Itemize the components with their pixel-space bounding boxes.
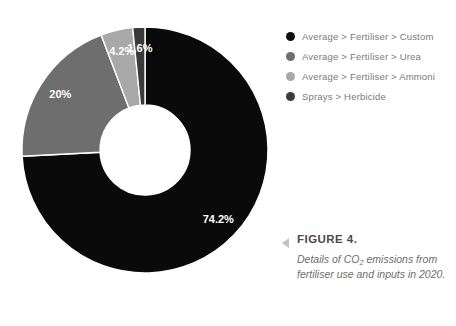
legend-swatch-icon bbox=[286, 52, 295, 61]
legend-item-label: Average > Fertiliser > Custom bbox=[302, 31, 434, 42]
figure-caption-body: FIGURE 4. Details of CO2 emissions from … bbox=[297, 233, 456, 282]
donut-chart-area: 74.2%20%4.2%1.6% bbox=[0, 0, 275, 326]
figure-caption-description: Details of CO2 emissions from fertiliser… bbox=[297, 252, 456, 282]
chart-legend: Average > Fertiliser > Custom Average > … bbox=[286, 28, 456, 108]
legend-swatch-icon bbox=[286, 92, 295, 101]
figure-caption: FIGURE 4. Details of CO2 emissions from … bbox=[282, 233, 456, 282]
legend-item-average-fertiliser-custom[interactable]: Average > Fertiliser > Custom bbox=[286, 28, 456, 44]
legend-item-average-fertiliser-urea[interactable]: Average > Fertiliser > Urea bbox=[286, 48, 456, 64]
legend-item-label: Sprays > Herbicide bbox=[302, 91, 386, 102]
figure-caption-description-part1: Details of CO bbox=[297, 253, 359, 265]
figure-caption-subscript: 2 bbox=[359, 258, 363, 267]
donut-chart-svg: 74.2%20%4.2%1.6% bbox=[0, 0, 275, 326]
triangle-left-icon bbox=[282, 238, 289, 248]
legend-item-sprays-herbicide[interactable]: Sprays > Herbicide bbox=[286, 88, 456, 104]
donut-slice-label: 1.6% bbox=[127, 42, 152, 54]
legend-item-label: Average > Fertiliser > Ammoni bbox=[302, 71, 435, 82]
legend-swatch-icon bbox=[286, 72, 295, 81]
figure-caption-title: FIGURE 4. bbox=[297, 233, 456, 245]
right-column: Average > Fertiliser > Custom Average > … bbox=[275, 0, 456, 326]
donut-slice-group bbox=[22, 27, 268, 273]
legend-item-label: Average > Fertiliser > Urea bbox=[302, 51, 421, 62]
donut-slice-label: 74.2% bbox=[203, 213, 234, 225]
legend-swatch-icon bbox=[286, 32, 295, 41]
legend-item-average-fertiliser-ammoni[interactable]: Average > Fertiliser > Ammoni bbox=[286, 68, 456, 84]
donut-slice-label: 20% bbox=[49, 88, 71, 100]
